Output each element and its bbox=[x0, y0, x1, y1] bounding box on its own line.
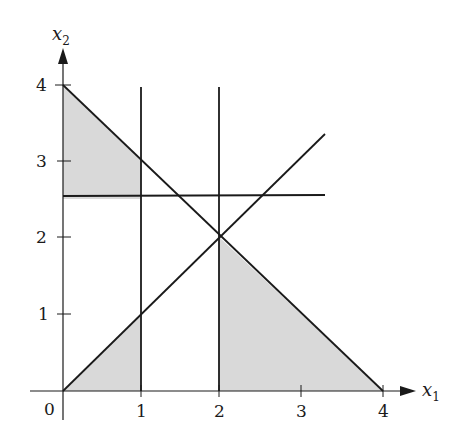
x-axis-label-base: x bbox=[422, 379, 432, 400]
x-tick-label-4: 4 bbox=[378, 401, 389, 421]
x-axis-label: x1 bbox=[422, 379, 440, 404]
origin-label: 0 bbox=[44, 399, 55, 419]
y-axis-label-base: x bbox=[52, 23, 62, 44]
x-tick-label-3: 3 bbox=[296, 401, 307, 421]
x-tick-label-1: 1 bbox=[136, 401, 147, 421]
y-axis-arrow-icon bbox=[58, 48, 68, 64]
feasible-region-diagram: 0 1 2 3 4 1 2 3 4 x1 x2 bbox=[0, 0, 467, 441]
x-axis-arrow-icon bbox=[400, 386, 416, 396]
y-tick-label-2: 2 bbox=[36, 227, 47, 247]
y-tick-label-4: 4 bbox=[36, 75, 47, 95]
shaded-region-upper-left bbox=[63, 85, 141, 199]
line-x2-eq-2.5 bbox=[63, 195, 325, 196]
x-tick-label-2: 2 bbox=[214, 401, 225, 421]
y-axis-label-subscript: 2 bbox=[62, 34, 70, 48]
y-tick-label-3: 3 bbox=[36, 151, 47, 171]
y-axis-label: x2 bbox=[52, 23, 70, 48]
x-axis-label-subscript: 1 bbox=[432, 390, 440, 404]
y-tick-label-1: 1 bbox=[38, 304, 49, 324]
